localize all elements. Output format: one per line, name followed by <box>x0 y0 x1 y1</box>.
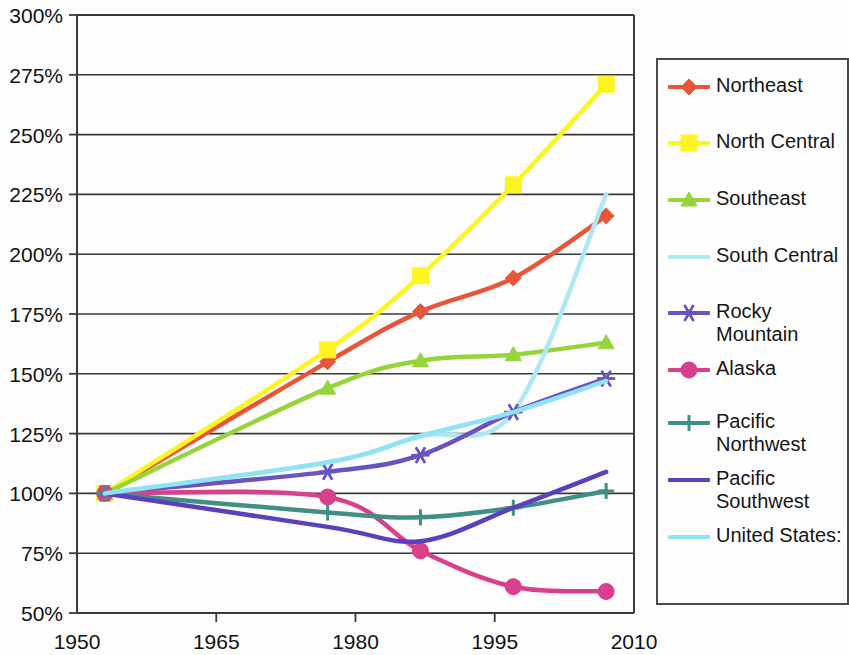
data-point-marker <box>681 415 697 431</box>
legend-swatch-plus-icon <box>666 412 712 434</box>
data-point-marker <box>681 79 697 95</box>
legend-swatch-none-icon <box>666 469 712 491</box>
data-point-marker <box>681 192 697 206</box>
legend-list: NortheastNorth CentralSoutheastSouth Cen… <box>658 70 847 603</box>
series-line <box>105 381 606 493</box>
data-point-marker <box>598 483 614 499</box>
data-point-marker <box>412 543 428 559</box>
legend-marker-plus-icon <box>677 411 701 435</box>
data-point-marker <box>412 304 428 320</box>
data-point-marker <box>681 135 697 151</box>
legend-item-north-central[interactable]: North Central <box>666 130 849 154</box>
y-tick-label: 50% <box>21 602 63 625</box>
series-united-states: <box>105 381 606 493</box>
chart-legend: NortheastNorth CentralSoutheastSouth Cen… <box>656 58 849 605</box>
legend-item-label: Alaska <box>716 357 776 380</box>
legend-item-label: United States: <box>716 524 842 547</box>
legend-marker-circle-icon <box>677 358 701 382</box>
y-tick-label: 150% <box>9 363 63 386</box>
legend-swatch-none-icon <box>666 526 712 548</box>
legend-item-pacific-northwest[interactable]: Pacific Northwest <box>666 410 849 456</box>
legend-item-south-central[interactable]: South Central <box>666 244 849 268</box>
legend-marker-asterisk-icon <box>677 301 701 325</box>
legend-swatch-asterisk-icon <box>666 302 712 324</box>
data-point-marker <box>320 505 336 521</box>
legend-item-alaska[interactable]: Alaska <box>666 357 849 381</box>
legend-item-pacific-southwest[interactable]: Pacific Southwest <box>666 467 849 513</box>
data-point-marker <box>680 305 698 321</box>
series-rocky-mountain <box>96 371 615 501</box>
legend-swatch-circle-icon <box>666 359 712 381</box>
data-point-marker <box>412 268 428 284</box>
legend-item-northeast[interactable]: Northeast <box>666 74 849 98</box>
chart-page: 50%75%100%125%150%175%200%225%250%275%30… <box>0 0 849 655</box>
legend-swatch-none-icon <box>666 246 712 268</box>
y-tick-label: 225% <box>9 183 63 206</box>
series-layer <box>96 76 615 599</box>
x-tick-label: 1980 <box>332 630 379 653</box>
data-point-marker <box>320 342 336 358</box>
legend-item-label: Northeast <box>716 74 803 97</box>
series-line <box>105 84 606 493</box>
data-point-marker <box>320 489 336 505</box>
legend-marker-triangle-icon <box>677 188 701 212</box>
data-point-marker <box>505 177 521 193</box>
data-point-marker <box>319 464 337 480</box>
legend-item-label: South Central <box>716 244 838 267</box>
legend-item-southeast[interactable]: Southeast <box>666 187 849 211</box>
y-tick-label: 250% <box>9 124 63 147</box>
data-point-marker <box>505 579 521 595</box>
legend-swatch-diamond-icon <box>666 76 712 98</box>
data-point-marker <box>412 509 428 525</box>
legend-item-label: Pacific Southwest <box>716 467 809 513</box>
y-tick-label: 125% <box>9 423 63 446</box>
y-tick-label: 200% <box>9 243 63 266</box>
data-point-marker <box>598 583 614 599</box>
legend-item-label: Southeast <box>716 187 806 210</box>
data-point-marker <box>681 362 697 378</box>
y-axis-tick-labels: 50%75%100%125%150%175%200%225%250%275%30… <box>9 4 63 625</box>
series-north-central <box>97 76 614 501</box>
y-tick-label: 175% <box>9 303 63 326</box>
y-tick-label: 275% <box>9 64 63 87</box>
legend-item-label: Pacific Northwest <box>716 410 806 456</box>
legend-swatch-triangle-icon <box>666 189 712 211</box>
series-southeast <box>97 335 614 500</box>
y-tick-label: 300% <box>9 4 63 27</box>
x-tick-label: 1965 <box>193 630 240 653</box>
x-tick-label: 1950 <box>54 630 101 653</box>
series-line <box>105 379 606 494</box>
legend-item-label: Rocky Mountain <box>716 300 849 346</box>
legend-item-rocky-mountain[interactable]: Rocky Mountain <box>666 300 849 346</box>
x-tick-label: 2010 <box>611 630 658 653</box>
data-point-marker <box>598 76 614 92</box>
x-tick-label: 1995 <box>471 630 518 653</box>
legend-marker-diamond-icon <box>677 75 701 99</box>
legend-marker-square-icon <box>677 131 701 155</box>
legend-item-label: North Central <box>716 130 835 153</box>
series-line <box>105 343 606 494</box>
legend-item-united-states:[interactable]: United States: <box>666 524 849 548</box>
y-tick-label: 75% <box>21 542 63 565</box>
data-point-marker <box>411 447 429 463</box>
legend-swatch-square-icon <box>666 132 712 154</box>
x-axis-ticks <box>69 15 495 622</box>
y-tick-label: 100% <box>9 482 63 505</box>
x-axis-tick-labels: 19501965198019952010 <box>54 630 658 653</box>
gridlines <box>77 15 634 553</box>
